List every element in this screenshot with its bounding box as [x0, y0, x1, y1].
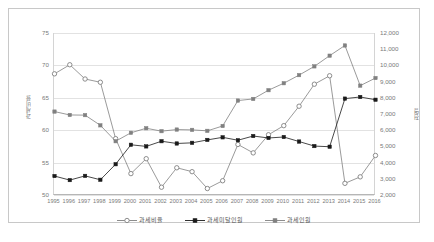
series-marker — [343, 44, 346, 47]
left-axis-tick: 75 — [15, 30, 49, 36]
series-marker — [206, 138, 209, 141]
series-marker — [53, 174, 56, 177]
category-axis-tick: 2016 — [364, 198, 386, 205]
series-marker — [190, 141, 193, 144]
plot-area — [53, 33, 375, 195]
series-marker — [190, 169, 194, 173]
series-marker — [358, 175, 362, 179]
category-axis: 1995199619971998199920002001200220032004… — [53, 198, 375, 210]
series-marker — [312, 82, 316, 86]
series-marker — [359, 95, 362, 98]
legend-item[interactable]: 과세미달인원 — [185, 216, 243, 225]
series-marker — [83, 113, 86, 116]
series-marker — [175, 128, 178, 131]
series-marker — [252, 134, 255, 137]
series-marker — [343, 97, 346, 100]
series-marker — [114, 140, 117, 143]
series-marker — [160, 140, 163, 143]
series-marker — [99, 178, 102, 181]
series-marker — [99, 124, 102, 127]
series-marker — [68, 113, 71, 116]
series-marker — [374, 76, 377, 79]
series-marker — [52, 72, 56, 76]
series-marker — [145, 145, 148, 148]
right-axis-tick: 3,000 — [380, 176, 420, 182]
series-marker — [206, 129, 209, 132]
series-line — [55, 45, 376, 141]
series-marker — [236, 99, 239, 102]
legend-marker-icon — [117, 216, 137, 225]
series-marker — [221, 124, 224, 127]
right-axis-tick: 5,000 — [380, 143, 420, 149]
series-marker — [328, 145, 331, 148]
series-marker — [297, 73, 300, 76]
right-axis-tick: 4,000 — [380, 160, 420, 166]
gridline — [54, 195, 374, 196]
series-canvas — [54, 33, 376, 195]
figure-frame: 505560657075 2,0003,0004,0005,0006,0007,… — [8, 8, 420, 223]
series-marker — [282, 82, 285, 85]
right-axis-tick: 2,000 — [380, 192, 420, 198]
left-axis-tick: 70 — [15, 62, 49, 68]
legend-marker-icon — [185, 216, 205, 225]
series-marker — [327, 74, 331, 78]
left-axis-title: 과세비율 — [25, 95, 31, 119]
left-value-axis: 505560657075 — [13, 33, 49, 195]
left-axis-tick: 65 — [15, 95, 49, 101]
legend-item[interactable]: 과세비율 — [117, 216, 163, 225]
series-marker — [282, 123, 286, 127]
right-axis-tick: 11,000 — [380, 46, 420, 52]
series-marker — [98, 80, 102, 84]
series-marker — [343, 181, 347, 185]
chart-figure: 505560657075 2,0003,0004,0005,0006,0007,… — [0, 0, 434, 242]
right-axis-tick: 10,000 — [380, 62, 420, 68]
series-marker — [236, 142, 240, 146]
right-axis-tick: 8,000 — [380, 95, 420, 101]
series-marker — [236, 139, 239, 142]
series-marker — [160, 129, 163, 132]
series-marker — [252, 97, 255, 100]
series-marker — [175, 166, 179, 170]
series-marker — [220, 179, 224, 183]
series-marker — [129, 171, 133, 175]
series-marker — [159, 185, 163, 189]
series-marker — [53, 110, 56, 113]
series-marker — [145, 127, 148, 130]
left-axis-tick: 55 — [15, 160, 49, 166]
series-marker — [374, 98, 377, 101]
series-marker — [114, 163, 117, 166]
series-marker — [175, 142, 178, 145]
legend-label: 과세인원 — [287, 216, 311, 225]
series-marker — [359, 84, 362, 87]
series-marker — [144, 157, 148, 161]
right-axis-tick: 9,000 — [380, 79, 420, 85]
legend-item[interactable]: 과세인원 — [265, 216, 311, 225]
series-marker — [313, 65, 316, 68]
right-axis-tick: 6,000 — [380, 127, 420, 133]
series-marker — [83, 77, 87, 81]
legend-label: 과세비율 — [139, 216, 163, 225]
right-axis-tick: 12,000 — [380, 30, 420, 36]
series-marker — [282, 135, 285, 138]
series-marker — [297, 104, 301, 108]
right-axis-title: 천명 — [413, 108, 419, 120]
series-marker — [328, 54, 331, 57]
series-marker — [373, 153, 377, 157]
series-marker — [221, 136, 224, 139]
legend-marker-icon — [265, 216, 285, 225]
series-marker — [83, 174, 86, 177]
left-axis-tick: 60 — [15, 127, 49, 133]
series-marker — [129, 143, 132, 146]
series-marker — [68, 178, 71, 181]
series-marker — [205, 186, 209, 190]
legend-label: 과세미달인원 — [207, 216, 243, 225]
series-marker — [267, 88, 270, 91]
chart-legend: 과세비율과세미달인원과세인원 — [53, 214, 375, 226]
series-marker — [190, 128, 193, 131]
series-marker — [267, 136, 270, 139]
series-marker — [251, 151, 255, 155]
series-marker — [297, 140, 300, 143]
series-marker — [313, 144, 316, 147]
series-line — [55, 97, 376, 180]
series-marker — [68, 63, 72, 67]
